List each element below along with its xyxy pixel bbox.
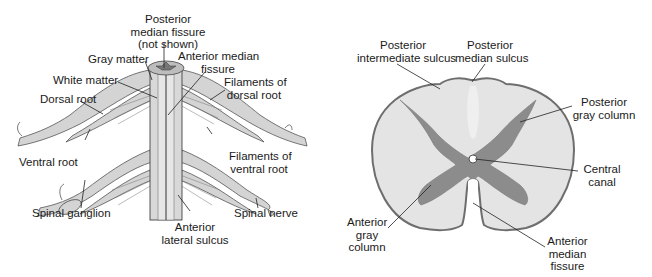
label-anterior-lateral-sulcus: Anterior lateral sulcus [160,221,230,246]
label-posterior-intermediate-sulcus: Posterior intermediate sulcus [357,39,449,64]
label-posterior-gray-column: Posterior gray column [572,96,636,121]
label-posterior-median-sulcus: Posterior median sulcus [455,39,525,64]
label-filaments-ventral-root: Filaments of ventral root [229,150,289,175]
label-spinal-ganglion: Spinal ganglion [32,207,111,220]
label-ventral-root: Ventral root [19,156,78,169]
label-anterior-gray-column: Anterior gray column [347,216,387,254]
label-dorsal-root: Dorsal root [40,93,96,106]
label-white-matter: White matter [53,74,118,87]
label-gray-matter: Gray matter [88,53,149,66]
label-filaments-dorsal-root: Filaments of dorsal root [224,76,284,101]
spinal-cord-roots-diagram: Posterior median fissure (not shown) Gra… [0,0,330,277]
label-central-canal: Central canal [582,163,622,188]
label-anterior-median-fissure: Anterior median fissure [178,50,258,75]
spinal-cord-cross-section-diagram: Posterior intermediate sulcus Posterior … [330,0,652,277]
label-posterior-median-fissure: Posterior median fissure (not shown) [128,13,208,51]
label-spinal-nerve: Spinal nerve [234,207,298,220]
label-anterior-median-fissure-cross: Anterior median fissure [545,235,590,273]
